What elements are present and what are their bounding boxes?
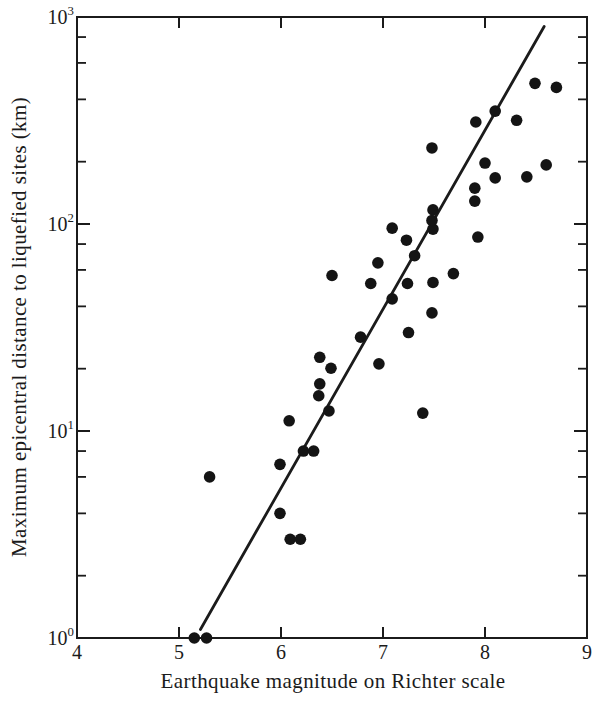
data-point	[489, 105, 501, 117]
data-point	[365, 278, 377, 290]
data-point	[323, 405, 335, 417]
data-point	[284, 533, 296, 545]
x-tick-label: 7	[378, 642, 388, 662]
data-point	[417, 407, 429, 419]
data-point	[409, 250, 421, 262]
data-point	[403, 327, 415, 339]
data-point	[469, 182, 481, 194]
data-point	[511, 114, 523, 126]
trend-line	[200, 26, 544, 629]
data-point	[274, 508, 286, 520]
data-point	[326, 270, 338, 282]
x-tick-label: 5	[174, 642, 184, 662]
data-point	[204, 471, 216, 483]
data-point	[314, 352, 326, 364]
data-point	[426, 142, 438, 154]
data-point	[479, 157, 491, 169]
data-point	[313, 390, 325, 402]
data-point	[355, 331, 367, 343]
data-point	[372, 257, 384, 269]
y-tick-label: 101	[48, 421, 74, 442]
data-point	[427, 277, 439, 289]
data-point	[551, 82, 563, 94]
data-point	[521, 171, 533, 183]
data-point	[308, 445, 320, 457]
y-tick-label: 100	[48, 628, 74, 649]
data-point	[402, 278, 414, 290]
data-point	[283, 415, 295, 427]
data-point	[325, 362, 337, 374]
y-tick-label: 102	[48, 214, 74, 235]
data-point	[489, 172, 501, 184]
data-point	[189, 632, 201, 644]
data-point	[386, 293, 398, 305]
data-point	[295, 533, 307, 545]
x-tick-label: 8	[480, 642, 490, 662]
x-axis-title: Earthquake magnitude on Richter scale	[161, 669, 506, 694]
data-point	[427, 204, 439, 216]
plot-canvas	[0, 0, 603, 706]
y-tick-label: 103	[48, 7, 74, 28]
data-point	[529, 78, 541, 90]
data-point	[386, 222, 398, 234]
data-point	[426, 307, 438, 319]
y-axis-title: Maximum epicentral distance to liquefied…	[7, 97, 32, 557]
data-point	[469, 195, 481, 207]
x-tick-label: 6	[276, 642, 286, 662]
data-point	[472, 231, 484, 243]
data-layer	[189, 26, 563, 643]
scatter-plot-figure: Maximum epicentral distance to liquefied…	[0, 0, 603, 706]
data-point	[448, 268, 460, 280]
axes-layer	[77, 17, 587, 638]
data-point	[314, 378, 326, 390]
plot-frame	[77, 17, 587, 638]
x-tick-label: 9	[582, 642, 592, 662]
data-point	[373, 358, 385, 370]
data-point	[298, 445, 310, 457]
data-point	[540, 159, 552, 171]
data-point	[201, 632, 213, 644]
data-point	[426, 215, 438, 227]
data-point	[401, 234, 413, 246]
data-point	[470, 116, 482, 128]
data-point	[274, 459, 286, 471]
